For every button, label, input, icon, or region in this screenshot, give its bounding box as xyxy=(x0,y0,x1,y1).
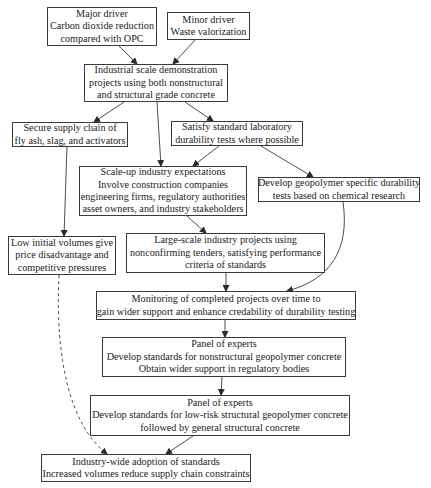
node-line: Scale-up industry expectations xyxy=(100,166,225,178)
node-line: engineering firms, regulatory authoritie… xyxy=(81,191,246,203)
edge-panel2-to-adoption xyxy=(166,436,193,454)
node-line: Low initial volumes give xyxy=(11,237,113,249)
node-line: Develop standards for nonstructural geop… xyxy=(107,351,342,363)
node-line: Panel of experts xyxy=(187,397,253,409)
edge-major-to-demonstration xyxy=(119,46,137,64)
node-minor-driver: Minor driver Waste valorization xyxy=(167,12,250,40)
node-panel-nonstructural: Panel of experts Develop standards for n… xyxy=(102,337,346,377)
edge-minor-to-demonstration xyxy=(173,39,196,64)
node-line: Waste valorization xyxy=(171,26,247,38)
edge-demonstration-to-supply xyxy=(94,102,124,122)
node-line: Industrial scale demonstration xyxy=(95,64,218,76)
node-line: price disadvantage and xyxy=(15,249,108,261)
node-line: Obtain wider support in regulatory bodie… xyxy=(139,363,310,375)
node-line: Develop geopolymer specific durability xyxy=(258,177,420,189)
node-line: Carbon dioxide reduction xyxy=(50,20,154,32)
node-line: Secure supply chain of xyxy=(23,122,116,134)
edge-demonstration-to-scaleup xyxy=(157,102,161,166)
node-major-driver: Major driver Carbon dioxide reduction co… xyxy=(47,7,157,46)
node-line: projects using both nonstructural xyxy=(89,77,223,89)
node-low-volumes: Low initial volumes give price disadvant… xyxy=(8,236,116,275)
node-line: criteria of standards xyxy=(185,259,266,271)
node-supply-chain: Secure supply chain of fly ash, slag, an… xyxy=(12,122,128,147)
edge-scaleup-to-largescale xyxy=(187,216,206,233)
node-monitoring: Monitoring of completed projects over ti… xyxy=(96,291,356,320)
node-large-scale: Large-scale industry projects using nonc… xyxy=(126,233,325,273)
node-adoption: Industry-wide adoption of standards Incr… xyxy=(41,454,251,482)
node-line: asset owners, and industry stakeholders xyxy=(83,203,244,215)
node-line: Develop standards for low-risk structura… xyxy=(92,409,348,421)
node-geopolymer-tests: Develop geopolymer specific durability t… xyxy=(258,177,420,202)
node-line: durability tests where possible xyxy=(175,134,299,146)
node-line: Minor driver xyxy=(182,14,234,26)
node-line: Large-scale industry projects using xyxy=(154,234,297,246)
node-line: fly ash, slag, and activators xyxy=(15,135,126,147)
edge-panel1-to-panel2 xyxy=(221,377,222,395)
node-line: gain wider support and enhance credabili… xyxy=(97,306,356,318)
node-line: Involve construction companies xyxy=(98,179,228,191)
node-line: Satisfy standard laboratory xyxy=(182,121,292,133)
edge-durability-to-scaleup xyxy=(193,146,219,166)
node-line: Monitoring of completed projects over ti… xyxy=(132,293,321,305)
edge-durability-to-geopolymer xyxy=(261,146,313,177)
node-line: followed by general structural concrete xyxy=(140,422,300,434)
edge-supply-to-lowvolumes xyxy=(64,146,67,236)
node-line: Major driver xyxy=(76,8,128,20)
node-line: Industry-wide adoption of standards xyxy=(72,456,219,468)
node-line: Panel of experts xyxy=(191,338,257,350)
node-line: competitive pressures xyxy=(18,262,107,274)
node-line: and structural grade concrete xyxy=(97,89,215,101)
node-durability-tests: Satisfy standard laboratory durability t… xyxy=(171,121,303,146)
flowchart-canvas: Major driver Carbon dioxide reduction co… xyxy=(0,0,431,488)
node-line: nonconfirming tenders, satisfying perfor… xyxy=(130,247,321,259)
node-line: compared with OPC xyxy=(60,33,143,45)
node-line: Increased volumes reduce supply chain co… xyxy=(43,468,250,480)
node-panel-structural: Panel of experts Develop standards for l… xyxy=(90,395,350,436)
node-line: tests based on chemical research xyxy=(273,190,405,202)
node-scale-up: Scale-up industry expectations Involve c… xyxy=(79,166,247,216)
node-demonstration: Industrial scale demonstration projects … xyxy=(84,64,228,102)
edge-demonstration-to-durability xyxy=(185,102,213,121)
